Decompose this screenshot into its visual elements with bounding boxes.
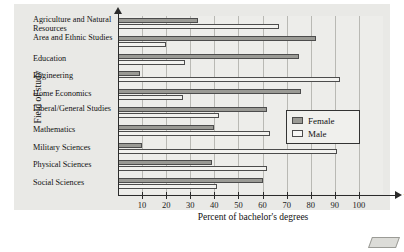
x-axis-line	[118, 195, 399, 196]
bar-female-0	[118, 18, 198, 23]
category-label-0: Agriculture and Natural Resources	[33, 16, 115, 33]
bar-female-8	[118, 160, 212, 165]
category-label-8: Physical Sciences	[33, 161, 115, 170]
category-label-5: Liberal/General Studies	[33, 105, 115, 114]
legend-item-male: Male	[292, 127, 359, 140]
gridline-80	[311, 16, 312, 194]
x-tick-70	[287, 192, 288, 199]
bar-female-4	[118, 89, 301, 94]
x-tick-label-70: 70	[276, 200, 298, 210]
x-tick-30	[190, 192, 191, 199]
bar-female-1	[118, 36, 316, 41]
bar-female-5	[118, 107, 267, 112]
bar-male-6	[118, 131, 270, 136]
bar-male-1	[118, 42, 166, 47]
x-tick-90	[335, 192, 336, 199]
x-tick-label-60: 60	[252, 200, 274, 210]
category-label-6: Mathematics	[33, 126, 115, 135]
category-label-9: Social Sciences	[33, 179, 115, 188]
x-axis-arrow	[395, 191, 402, 199]
legend-swatch-female-icon	[292, 117, 303, 124]
bar-female-7	[118, 143, 142, 148]
category-label-3: Engineering	[33, 72, 115, 81]
x-tick-80	[311, 192, 312, 199]
bar-male-7	[118, 149, 337, 154]
gridline-90	[335, 16, 336, 194]
category-label-1: Area and Ethnic Studies	[33, 34, 115, 43]
gridline-70	[287, 16, 288, 194]
x-tick-10	[142, 192, 143, 199]
bar-female-9	[118, 178, 263, 183]
x-axis-title: Percent of bachelor's degrees	[118, 212, 388, 222]
bar-male-2	[118, 60, 185, 65]
category-label-2: Education	[33, 55, 115, 64]
legend: Female Male	[286, 110, 360, 144]
x-tick-20	[166, 192, 167, 199]
x-tick-50	[238, 192, 239, 199]
legend-swatch-male-icon	[292, 130, 303, 137]
category-label-4: Home Economics	[33, 90, 115, 99]
bar-chart-figure: x 102030405060708090100 Agriculture and …	[0, 0, 404, 252]
x-tick-label-20: 20	[155, 200, 177, 210]
x-tick-100	[359, 192, 360, 199]
chart-panel: x 102030405060708090100 Agriculture and …	[14, 4, 390, 210]
x-tick-label-90: 90	[324, 200, 346, 210]
x-tick-label-10: 10	[131, 200, 153, 210]
bar-male-4	[118, 95, 183, 100]
x-tick-60	[263, 192, 264, 199]
plot-area	[118, 16, 383, 194]
bar-female-6	[118, 125, 214, 130]
bar-male-3	[118, 77, 340, 82]
category-label-7: Military Sciences	[33, 144, 115, 153]
x-tick-label-80: 80	[300, 200, 322, 210]
bar-male-9	[118, 184, 217, 189]
x-tick-label-100: 100	[348, 200, 370, 210]
gridline-100	[359, 16, 360, 194]
bar-male-5	[118, 113, 219, 118]
x-tick-40	[214, 192, 215, 199]
y-axis-title: Field of study	[33, 49, 43, 145]
x-tick-label-30: 30	[179, 200, 201, 210]
legend-label-male: Male	[308, 129, 327, 139]
bar-female-2	[118, 54, 299, 59]
bar-male-8	[118, 166, 267, 171]
y-axis-line	[118, 12, 119, 196]
y-axis-arrow	[114, 7, 122, 14]
x-tick-label-50: 50	[227, 200, 249, 210]
bar-female-3	[118, 71, 140, 76]
page-corner-decoration	[368, 237, 400, 248]
bar-male-0	[118, 24, 279, 29]
legend-label-female: Female	[308, 116, 335, 126]
legend-item-female: Female	[292, 114, 359, 127]
x-tick-label-40: 40	[203, 200, 225, 210]
